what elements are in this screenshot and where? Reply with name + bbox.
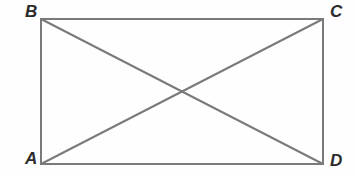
vertex-label-B: B [25, 3, 37, 20]
vertex-label-D: D [330, 152, 342, 169]
geometry-figure: B C A D [0, 0, 355, 176]
vertex-label-C: C [330, 3, 342, 20]
vertex-label-A: A [25, 150, 37, 167]
rectangle-diagonals-drawing [0, 0, 355, 176]
